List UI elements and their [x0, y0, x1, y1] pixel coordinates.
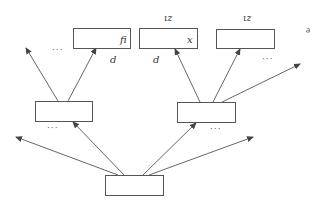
label-below-top-2: d — [153, 54, 159, 65]
ellipsis-marker: ··· — [47, 123, 59, 133]
label-top-1-inner: fi — [119, 34, 127, 45]
node-box-root — [106, 176, 164, 196]
edge-arrow — [175, 49, 200, 102]
label-top-2-inner: x — [187, 34, 193, 45]
ellipsis-marker: ··· — [52, 45, 64, 55]
node-box-mid-right — [178, 103, 236, 123]
label-right-edge: ∂ — [306, 26, 310, 35]
edge-arrow — [213, 49, 240, 102]
edge-arrow — [68, 48, 96, 101]
node-box-top-3 — [217, 30, 275, 49]
edge-arrow — [222, 64, 300, 102]
edge-arrow — [149, 137, 253, 175]
label-above-top-3: ιz — [243, 13, 252, 23]
tree-diagram: fi x d d ιz ιz ∂ ············ — [0, 0, 320, 215]
ellipsis-marker: ··· — [262, 54, 274, 64]
edge-arrow — [73, 122, 124, 175]
edge-arrow — [16, 137, 118, 175]
ellipsis-marker: ··· — [210, 124, 222, 134]
label-above-top-2: ιz — [164, 13, 173, 23]
node-box-mid-left — [36, 102, 93, 122]
edge-arrow — [26, 48, 58, 101]
label-below-top-1: d — [110, 54, 116, 65]
